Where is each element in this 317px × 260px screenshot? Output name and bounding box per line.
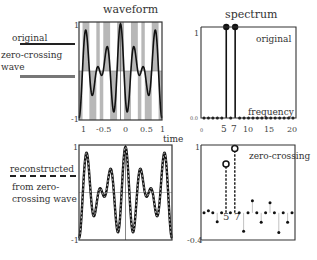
- reconstructed-panel: [79, 145, 172, 240]
- figure-canvas: [0, 0, 317, 260]
- spectrum-zero-crossing-panel: [201, 145, 295, 240]
- spectrum-original-panel: [201, 24, 296, 120]
- waveform-panel: [79, 22, 162, 120]
